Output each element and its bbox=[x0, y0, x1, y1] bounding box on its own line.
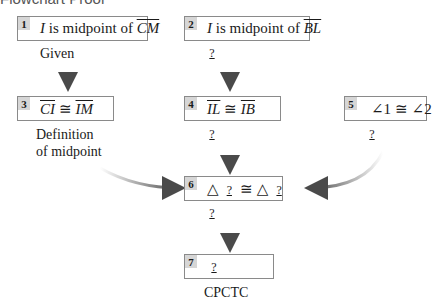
step-2-reason-blank[interactable]: ? bbox=[205, 45, 219, 62]
step-7-box: 7 ? bbox=[184, 254, 274, 279]
arrow-5-to-6 bbox=[310, 152, 383, 188]
step-7-reason: CPCTC bbox=[204, 284, 248, 301]
blank-step-7[interactable]: ? bbox=[207, 260, 221, 275]
step-3-box: 3 CI ≅ IM bbox=[17, 96, 114, 121]
step-5-box: 5 ∠1 ≅ ∠2 bbox=[344, 96, 427, 121]
arrow-3-to-6 bbox=[100, 168, 180, 188]
step-4-box: 4 IL ≅ IB bbox=[184, 96, 281, 121]
step-6-box: 6 △ ? ≅ △ ? bbox=[184, 176, 283, 201]
step-number: 7 bbox=[185, 255, 197, 268]
step-6-reason-blank[interactable]: ? bbox=[205, 205, 219, 222]
step-statement: △ ? ≅ △ ? bbox=[185, 180, 286, 198]
blank-triangle-a[interactable]: ? bbox=[222, 183, 236, 198]
step-number: 1 bbox=[18, 17, 30, 30]
triangle-symbol: △ bbox=[257, 181, 269, 197]
step-2-box: 2 I is midpoint of BL bbox=[184, 16, 310, 41]
step-number: 4 bbox=[185, 97, 197, 110]
step-number: 5 bbox=[345, 97, 357, 110]
step-statement: ∠1 ≅ ∠2 bbox=[345, 100, 432, 118]
step-4-reason-blank[interactable]: ? bbox=[205, 126, 219, 143]
step-number: 6 bbox=[185, 177, 197, 190]
blank-triangle-b[interactable]: ? bbox=[272, 183, 286, 198]
step-number: 3 bbox=[18, 97, 30, 110]
step-1-reason: Given bbox=[40, 45, 74, 62]
step-1-box: 1 I is midpoint of CM bbox=[17, 16, 148, 41]
step-5-reason-blank[interactable]: ? bbox=[365, 126, 379, 143]
step-statement: I is midpoint of CM bbox=[18, 20, 159, 37]
step-statement: I is midpoint of BL bbox=[185, 20, 321, 37]
step-3-reason: Definition of midpoint bbox=[36, 126, 102, 160]
step-number: 2 bbox=[185, 17, 197, 30]
triangle-symbol: △ bbox=[207, 181, 219, 197]
